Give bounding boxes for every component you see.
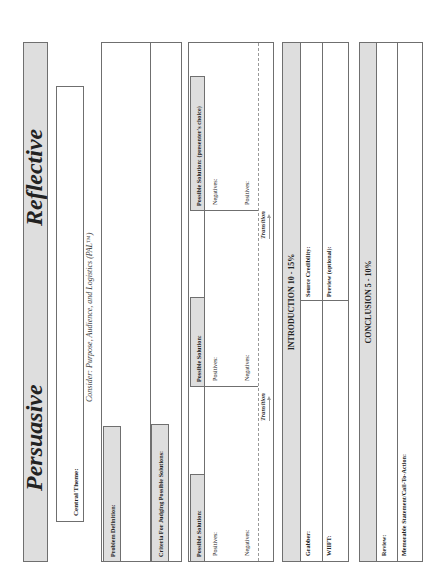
source-credibility-field[interactable]: Source Credibility: bbox=[305, 247, 311, 297]
transition-label-1: Transition bbox=[259, 393, 266, 421]
solution-1-tab: Possible Solution: bbox=[190, 474, 205, 562]
solution-1-positives[interactable]: Positives: bbox=[212, 532, 218, 556]
transition-dashed-line bbox=[258, 43, 259, 561]
introduction-header-text: INTRODUCTION 10 - 15% bbox=[287, 254, 296, 351]
divider bbox=[204, 386, 258, 387]
solution-2-positives[interactable]: Positives: bbox=[212, 357, 218, 381]
wiift-field[interactable]: WIIFT: bbox=[326, 535, 332, 556]
solution-3-positives[interactable]: Positives: bbox=[244, 181, 250, 205]
criteria-field[interactable] bbox=[169, 41, 182, 561]
divider bbox=[204, 211, 205, 297]
central-theme-box[interactable]: Central Theme: bbox=[56, 86, 84, 522]
solution-3-negatives[interactable]: Negatives: bbox=[212, 179, 218, 205]
divider bbox=[204, 387, 205, 474]
criteria-tab: Criteria For Judging Possible Solutions: bbox=[151, 424, 169, 562]
review-field[interactable]: Review: bbox=[381, 535, 387, 556]
divider bbox=[397, 43, 398, 561]
reflective-title: Reflective bbox=[21, 129, 48, 226]
divider bbox=[204, 210, 258, 211]
problem-criteria-box: Problem Definition: Criteria For Judging… bbox=[101, 42, 182, 562]
solution-1-title: Possible Solution: bbox=[196, 510, 202, 557]
conclusion-header: CONCLUSION 5 - 10% bbox=[359, 42, 377, 562]
solution-3-title: Possible Solution: (presenter's choice) bbox=[196, 106, 202, 206]
grabber-field[interactable]: Grabber: bbox=[305, 531, 311, 556]
preview-field[interactable]: Preview (optional): bbox=[326, 246, 332, 297]
title-bar: Persuasive Reflective bbox=[23, 42, 48, 562]
transition-arrow-2 bbox=[269, 217, 270, 239]
central-theme-label: Central Theme: bbox=[73, 469, 80, 517]
persuasive-title: Persuasive bbox=[21, 384, 48, 491]
problem-definition-label: Problem Definition: bbox=[110, 504, 116, 557]
problem-definition-tab: Problem Definition: bbox=[103, 426, 121, 562]
introduction-header: INTRODUCTION 10 - 15% bbox=[282, 42, 301, 562]
introduction-box: INTRODUCTION 10 - 15% Grabber: Source Cr… bbox=[282, 42, 349, 562]
solution-1-negatives[interactable]: Negatives: bbox=[244, 530, 250, 556]
persuasive-outline-page: Persuasive Reflective Central Theme: Con… bbox=[23, 42, 423, 562]
solution-2-title: Possible Solution: bbox=[196, 335, 202, 382]
divider bbox=[301, 300, 348, 301]
transition-label-2: Transition bbox=[259, 211, 266, 239]
conclusion-box: CONCLUSION 5 - 10% Review: Memorable Sta… bbox=[359, 42, 423, 562]
transition-arrow-1 bbox=[269, 399, 270, 421]
solution-3-tab: Possible Solution: (presenter's choice) bbox=[190, 76, 205, 211]
criteria-label: Criteria For Judging Possible Solutions: bbox=[158, 451, 164, 557]
memorable-statement-field[interactable]: Memorable Statement/Call-To-Action: bbox=[401, 454, 407, 556]
solution-2-negatives[interactable]: Negatives: bbox=[244, 355, 250, 381]
consider-pal-note: Consider: Purpose, Audience, and Logisti… bbox=[85, 232, 94, 402]
divider bbox=[322, 43, 323, 561]
solution-2-tab: Possible Solution: bbox=[190, 297, 205, 387]
problem-definition-field[interactable] bbox=[121, 41, 151, 561]
conclusion-header-text: CONCLUSION 5 - 10% bbox=[364, 261, 373, 344]
solutions-box: Possible Solution: Positives: Negatives:… bbox=[188, 42, 274, 562]
